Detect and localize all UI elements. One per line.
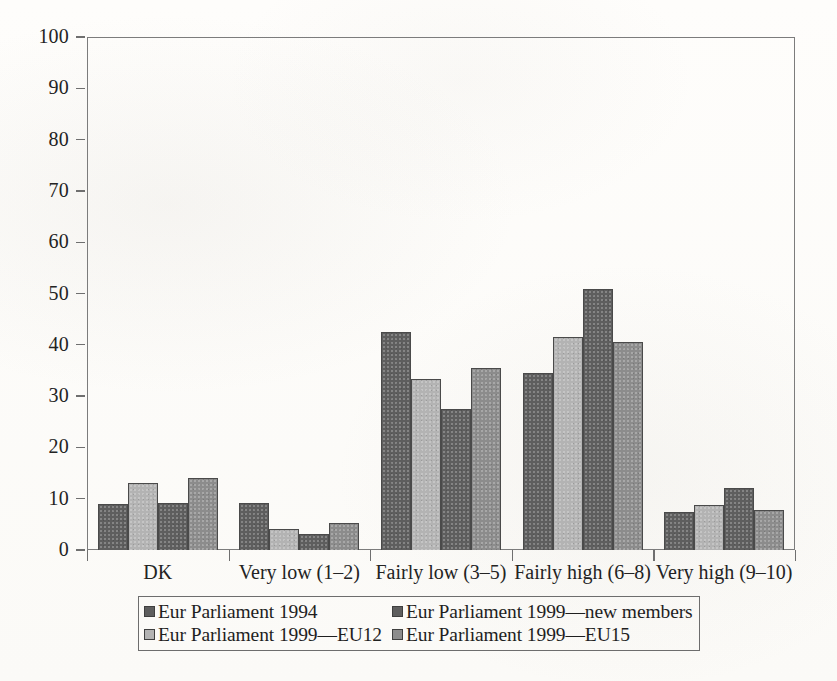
y-axis-tick-mark [76, 549, 85, 550]
legend-label: Eur Parliament 1994 [158, 600, 317, 623]
bar [583, 289, 613, 550]
bars-layer [87, 37, 795, 550]
bar [98, 504, 128, 550]
bar [523, 373, 553, 550]
legend-label: Eur Parliament 1999—new members [406, 600, 693, 623]
bar-group [512, 37, 654, 550]
y-axis-tick-mark [76, 242, 85, 243]
legend-item: Eur Parliament 1994 [144, 600, 382, 623]
y-axis-tick-label: 0 [59, 539, 76, 559]
y-axis: 0102030405060708090100 [0, 37, 76, 550]
x-axis-label: Very low (1–2) [229, 557, 371, 589]
bar-group [229, 37, 371, 550]
plot-area [87, 37, 795, 550]
y-axis-tick-label: 30 [49, 385, 76, 405]
bar [329, 523, 359, 550]
bar [754, 510, 784, 550]
bar [158, 503, 188, 550]
x-axis-labels: DKVery low (1–2)Fairly low (3–5)Fairly h… [87, 557, 795, 589]
legend-grid: Eur Parliament 1994Eur Parliament 1999—n… [144, 600, 693, 646]
legend-swatch [144, 606, 155, 617]
y-axis-tick-label: 80 [49, 129, 76, 149]
legend-item: Eur Parliament 1999—EU12 [144, 623, 382, 646]
y-axis-tick-mark [76, 36, 85, 37]
x-axis-label: Fairly low (3–5) [370, 557, 512, 589]
legend-swatch [392, 606, 403, 617]
bar [471, 368, 501, 550]
y-axis-tick-label: 10 [49, 488, 76, 508]
y-axis-tick-mark [76, 293, 85, 294]
y-axis-tick-mark [76, 190, 85, 191]
legend-item: Eur Parliament 1999—EU15 [392, 623, 693, 646]
bar-group [653, 37, 795, 550]
bar [613, 342, 643, 550]
bar [269, 529, 299, 550]
y-axis-tick-label: 40 [49, 334, 76, 354]
bar [128, 483, 158, 550]
x-axis-label: Fairly high (6–8) [512, 557, 654, 589]
bar [188, 478, 218, 550]
y-axis-tick-label: 20 [49, 436, 76, 456]
legend-swatch [392, 629, 403, 640]
x-axis-label: Very high (9–10) [653, 557, 795, 589]
y-axis-tick-label: 50 [49, 283, 76, 303]
chart-legend: Eur Parliament 1994Eur Parliament 1999—n… [138, 596, 700, 651]
bar [441, 409, 471, 550]
y-axis-tick-label: 90 [49, 77, 76, 97]
legend-swatch [144, 629, 155, 640]
y-axis-tick-label: 60 [49, 231, 76, 251]
bar [239, 503, 269, 550]
legend-label: Eur Parliament 1999—EU15 [406, 623, 630, 646]
legend-item: Eur Parliament 1999—new members [392, 600, 693, 623]
bar [381, 332, 411, 550]
bar [724, 488, 754, 550]
bar [664, 512, 694, 550]
y-axis-tick-label: 70 [49, 180, 76, 200]
bar [553, 337, 583, 550]
bar [411, 379, 441, 550]
bar [694, 505, 724, 550]
y-axis-tick-mark [76, 344, 85, 345]
bar-chart-figure: 0102030405060708090100 DKVery low (1–2)F… [0, 0, 837, 681]
x-axis-tick-mark [795, 550, 796, 561]
bar-group [370, 37, 512, 550]
y-axis-tick-mark [76, 139, 85, 140]
y-axis-tick-mark [76, 88, 85, 89]
y-axis-tick-mark [76, 447, 85, 448]
y-axis-tick-label: 100 [38, 26, 76, 46]
y-axis-tick-mark [76, 498, 85, 499]
bar-group [87, 37, 229, 550]
legend-label: Eur Parliament 1999—EU12 [158, 623, 382, 646]
y-axis-tick-mark [76, 395, 85, 396]
x-axis-label: DK [87, 557, 229, 589]
bar [299, 534, 329, 550]
